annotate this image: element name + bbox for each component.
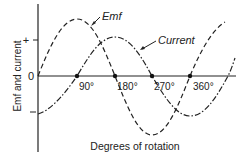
- point-180: [113, 74, 117, 78]
- x-tick-label-360: 360°: [193, 81, 214, 92]
- y-axis-label: Emf and current: [12, 40, 23, 111]
- emf-label: Emf: [102, 10, 123, 22]
- y-tick-label-zero: 0: [28, 70, 34, 82]
- y-tick-label-plus: +: [23, 34, 29, 46]
- x-tick-label-270: 270°: [154, 81, 175, 92]
- point-90: [75, 74, 79, 78]
- point-270: [150, 74, 154, 78]
- x-axis-label: Degrees of rotation: [90, 140, 179, 152]
- point-360: [188, 74, 192, 78]
- current-label: Current: [158, 34, 196, 46]
- chart: + 0 Emf and current 90° 180° 270° 360° E…: [0, 0, 244, 159]
- emf-curve: [38, 19, 225, 135]
- current-arrowhead-icon: [140, 46, 145, 50]
- x-tick-label-90: 90°: [79, 81, 94, 92]
- x-tick-label-180: 180°: [117, 81, 138, 92]
